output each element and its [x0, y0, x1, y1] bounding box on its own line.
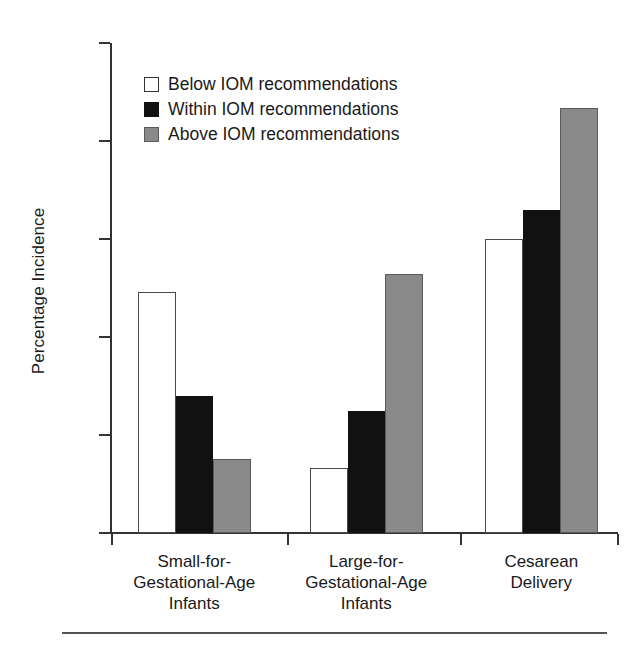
legend-item-within: Within IOM recommendations: [144, 97, 400, 122]
bar-below-group-2: [485, 239, 523, 533]
legend-label-within: Within IOM recommendations: [168, 101, 399, 119]
legend-item-below: Below IOM recommendations: [144, 72, 400, 97]
group-caption-0: Small-for- Gestational-Age Infants: [94, 551, 294, 614]
bar-within-group-2: [523, 210, 561, 533]
bar-below-group-0: [138, 292, 176, 533]
legend-item-above: Above IOM recommendations: [144, 122, 400, 147]
bar-above-group-0: [213, 459, 251, 533]
legend-swatch-within-icon: [144, 102, 159, 117]
bar-above-group-2: [560, 108, 598, 533]
bar-above-group-1: [385, 274, 423, 533]
legend-swatch-above-icon: [144, 127, 159, 142]
legend-label-below: Below IOM recommendations: [168, 76, 398, 94]
group-caption-1: Large-for- Gestational-Age Infants: [266, 551, 466, 614]
bar-within-group-1: [348, 411, 386, 533]
bar-within-group-0: [176, 396, 214, 533]
legend-swatch-below-icon: [144, 77, 159, 92]
bar-chart-figure: Percentage Incidence 0510152025 Small-fo…: [0, 0, 626, 647]
bar-below-group-1: [310, 468, 348, 533]
group-caption-2: Cesarean Delivery: [441, 551, 626, 593]
legend: Below IOM recommendations Within IOM rec…: [144, 72, 400, 147]
footer-divider: [62, 632, 607, 634]
legend-label-above: Above IOM recommendations: [168, 126, 400, 144]
